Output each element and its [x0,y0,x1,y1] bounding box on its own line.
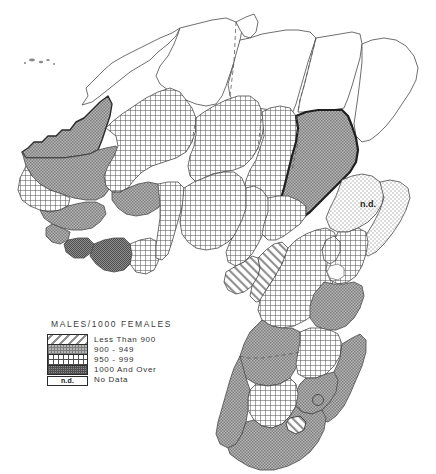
legend-title: MALES/1000 FEMALES [47,319,207,329]
africa-map: n.d. [0,0,436,474]
legend-label-900-949: 900 - 949 [94,345,134,354]
legend-item-1000-over: 1000 And Over [47,365,207,375]
legend-swatch-900-949 [47,344,88,354]
legend-label-lt900: Less Than 900 [94,335,156,344]
legend-swatch-lt900 [47,334,88,344]
legend-swatch-1000-over [47,365,88,375]
legend-label-no-data: No Data [94,375,128,384]
legend-item-900-949: 900 - 949 [47,344,207,354]
legend-item-lt900: Less Than 900 [47,334,207,344]
legend-swatch-nd-text: n.d. [61,377,74,384]
lake-victoria [327,264,344,280]
map-svg: n.d. [0,0,436,474]
legend-item-no-data: n.d. No Data [47,375,207,385]
legend-swatch-950-999 [47,354,88,364]
region-swaziland [313,395,324,406]
legend-swatch-no-data: n.d. [47,376,88,386]
map-nd-annotation: n.d. [360,199,376,209]
legend-rows: Less Than 900 900 - 949 950 - 999 1000 A… [47,334,207,385]
map-legend: MALES/1000 FEMALES Less Than 900 900 - 9… [47,319,207,385]
legend-label-950-999: 950 - 999 [94,355,134,364]
legend-item-950-999: 950 - 999 [47,354,207,364]
legend-label-1000-over: 1000 And Over [94,365,156,374]
